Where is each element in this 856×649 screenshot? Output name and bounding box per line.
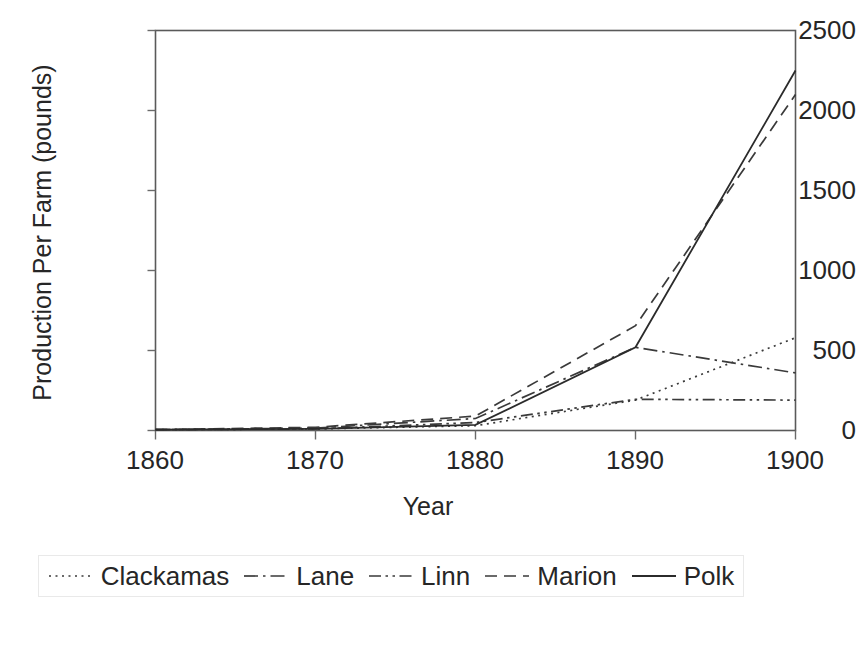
series-line-lane [156, 347, 796, 429]
series-line-polk [156, 71, 796, 430]
chart-legend: ClackamasLaneLinnMarionPolk [38, 555, 744, 597]
chart-plot-area [0, 0, 856, 470]
legend-label: Clackamas [101, 561, 230, 592]
plot-frame [156, 31, 796, 431]
x-tick-marks [156, 431, 796, 440]
x-axis-title: Year [0, 492, 856, 521]
chart-page: Production Per Farm (pounds) 2500 2000 1… [0, 0, 856, 649]
legend-swatch-polk-icon [631, 569, 677, 583]
legend-label: Marion [537, 561, 616, 592]
legend-item-marion[interactable]: Marion [484, 561, 630, 592]
series-line-marion [156, 95, 796, 430]
legend-label: Lane [296, 561, 354, 592]
y-tick-marks [148, 31, 156, 431]
legend-label: Linn [421, 561, 470, 592]
legend-item-clackamas[interactable]: Clackamas [48, 561, 244, 592]
series-lines [156, 71, 796, 430]
legend-swatch-marion-icon [484, 569, 530, 583]
series-line-clackamas [156, 338, 796, 430]
legend-swatch-clackamas-icon [48, 569, 94, 583]
legend-swatch-linn-icon [368, 569, 414, 583]
legend-label: Polk [684, 561, 735, 592]
legend-item-lane[interactable]: Lane [243, 561, 368, 592]
legend-swatch-lane-icon [243, 569, 289, 583]
legend-item-linn[interactable]: Linn [368, 561, 484, 592]
legend-item-polk[interactable]: Polk [631, 561, 735, 592]
